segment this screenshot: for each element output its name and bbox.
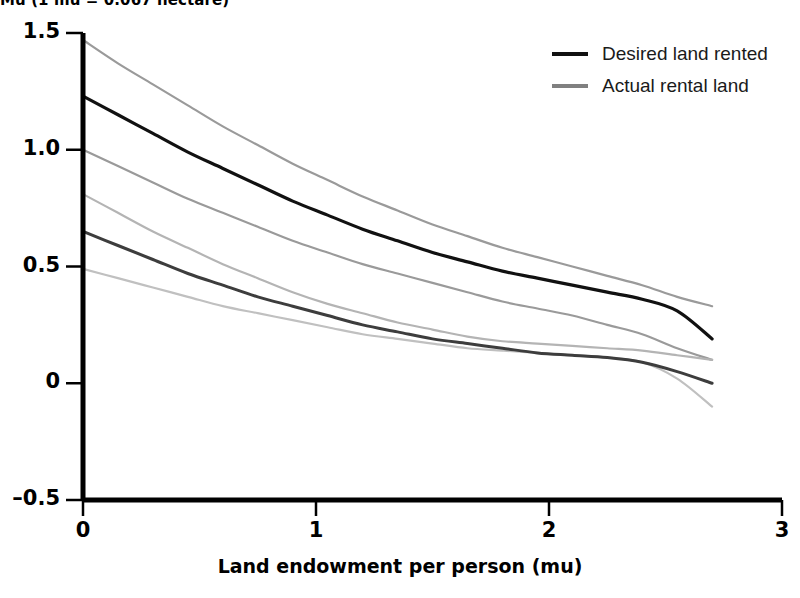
- x-tick-label-0: 0: [63, 518, 103, 542]
- legend-label: Actual rental land: [602, 75, 749, 97]
- curve-series-5: [83, 269, 712, 407]
- y-tick-label-0.5: 0.5: [0, 253, 60, 277]
- y-tick-label--0.5: –0.5: [0, 486, 60, 510]
- legend-label: Desired land rented: [602, 43, 768, 65]
- legend-desired[interactable]: Desired land rented: [552, 38, 792, 70]
- x-tick-label-1: 1: [296, 518, 336, 542]
- curve-series-0: [83, 96, 712, 339]
- axis-ticks: [66, 33, 782, 516]
- legend-swatch-line-icon: [552, 84, 588, 88]
- curve-series-2: [83, 150, 712, 360]
- x-tick-label-2: 2: [529, 518, 569, 542]
- axis-lines: [83, 33, 782, 500]
- curve-series-4: [83, 194, 712, 360]
- x-axis-title: Land endowment per person (mu): [0, 555, 800, 577]
- y-tick-label-0: 0: [0, 369, 60, 393]
- y-tick-label-1.0: 1.0: [0, 136, 60, 160]
- x-tick-label-3: 3: [762, 518, 800, 542]
- y-tick-label-1.5: 1.5: [0, 19, 60, 43]
- legend-swatch-line-icon: [552, 52, 588, 56]
- figure-container: Mu (1 mu = 0.067 hectare) 01231.51.00.50…: [0, 0, 800, 598]
- chart-legend: Desired land rentedActual rental land: [552, 38, 792, 102]
- curve-series-3: [83, 231, 712, 383]
- legend-actual[interactable]: Actual rental land: [552, 70, 792, 102]
